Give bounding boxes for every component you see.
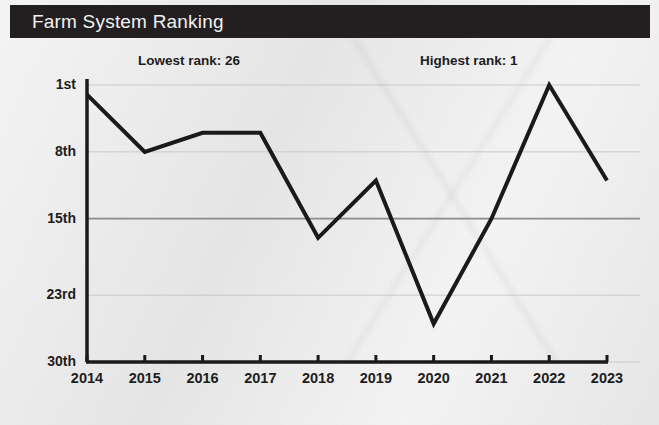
y-tick-label: 30th [22, 353, 76, 369]
x-tick-label: 2023 [578, 370, 636, 386]
x-tick-label: 2022 [520, 370, 578, 386]
axes [86, 79, 608, 362]
chart-page: Farm System Ranking Lowest rank: 26 High… [0, 0, 659, 425]
chart-svg [0, 0, 659, 425]
x-tick-label: 2020 [405, 370, 463, 386]
data-series-line [87, 85, 607, 324]
x-tick-label: 2016 [174, 370, 232, 386]
y-tick-label: 8th [22, 143, 76, 159]
series-polyline [87, 85, 607, 324]
x-tick-label: 2021 [462, 370, 520, 386]
x-tick-label: 2017 [231, 370, 289, 386]
x-tick-label: 2018 [289, 370, 347, 386]
x-tick-label: 2019 [347, 370, 405, 386]
line-chart: 1st8th15th23rd30th 201420152016201720182… [0, 0, 659, 425]
y-tick-label: 23rd [22, 286, 76, 302]
y-tick-label: 1st [22, 76, 76, 92]
gridlines [87, 85, 640, 362]
x-tick-label: 2014 [58, 370, 116, 386]
y-tick-label: 15th [22, 210, 76, 226]
x-tick-label: 2015 [116, 370, 174, 386]
